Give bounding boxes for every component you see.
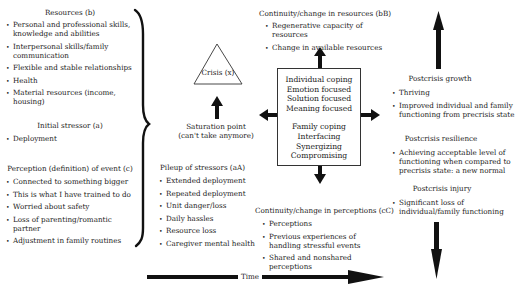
continuity-perceptions-list: Perceptions Previous experiences of hand…: [262, 219, 388, 275]
postcrisis-injury-heading: Postcrisis injury: [404, 184, 480, 193]
list-item: Change in available resources: [265, 43, 400, 52]
continuity-resources-heading: Continuity/change in resources (bB): [259, 9, 389, 18]
list-item: Unit danger/loss: [159, 201, 269, 210]
coping-item: Synergizing: [278, 142, 360, 152]
list-item: Interpersonal skills/family communicatio…: [6, 42, 134, 60]
family-coping-group: Family coping Interfacing Synergizing Co…: [278, 122, 360, 160]
list-item: Worried about safety: [6, 202, 138, 211]
crisis-label: Crisis (x): [194, 68, 242, 77]
coping-box: Individual coping Emotion focused Soluti…: [277, 68, 361, 166]
resources-heading: Resources (b): [10, 8, 130, 17]
pileup-heading: Pileup of stressors (aA): [160, 163, 256, 172]
family-coping-title: Family coping: [278, 122, 360, 132]
arrow-left-saturation-icon: [259, 109, 268, 121]
list-item: Shared and nonshared perceptions: [262, 253, 388, 271]
list-item: Daily hassles: [159, 214, 269, 223]
initial-stressor-list: Deployment: [6, 134, 134, 147]
coping-item: Interfacing: [278, 132, 360, 142]
initial-stressor-heading: Initial stressor (a): [10, 121, 130, 130]
list-item: Repeated deployment: [159, 189, 269, 198]
individual-coping-title: Individual coping: [278, 75, 360, 85]
postcrisis-resilience-heading: Postcrisis resilience: [398, 134, 484, 143]
continuity-perceptions-heading: Continuity/change in perceptions (cC): [255, 206, 385, 215]
list-item: Perceptions: [262, 219, 388, 228]
pileup-list: Extended deployment Repeated deployment …: [159, 176, 269, 251]
list-item: Loss of parenting/romantic partner: [6, 215, 138, 233]
coping-item: Meaning focused: [278, 104, 360, 114]
arrow-down-perceptions-icon: [314, 174, 326, 184]
arrow-up-growth-icon: [433, 11, 444, 30]
coping-item: Solution focused: [278, 94, 360, 104]
list-item: Achieving acceptable level of functionin…: [392, 148, 518, 175]
list-item: Material resources (income, housing): [6, 88, 134, 106]
coping-item: Compromising: [278, 151, 360, 161]
list-item: Adjustment in family routines: [6, 236, 138, 245]
arrow-down-injury-icon: [431, 249, 442, 279]
crisis-triangle: [194, 44, 242, 84]
list-item: Connected to something bigger: [6, 177, 138, 186]
continuity-resources-list: Regenerative capacity of resources Chang…: [265, 21, 400, 55]
list-item: Flexible and stable relationships: [6, 63, 134, 72]
postcrisis-growth-list: Thriving Improved individual and family …: [392, 88, 518, 122]
list-item: Thriving: [392, 88, 518, 97]
list-item: Health: [6, 76, 134, 85]
individual-coping-group: Individual coping Emotion focused Soluti…: [278, 75, 360, 113]
list-item: Significant loss of individual/family fu…: [392, 198, 520, 216]
list-item: Personal and professional skills, knowle…: [6, 20, 134, 38]
list-item: Regenerative capacity of resources: [265, 21, 400, 39]
time-axis-label: Time: [238, 272, 262, 281]
saturation-line2: (can't take anymore): [160, 131, 272, 140]
arrow-right-postcrisis-icon: [371, 109, 380, 121]
coping-item: Emotion focused: [278, 85, 360, 95]
postcrisis-resilience-list: Achieving acceptable level of functionin…: [392, 148, 518, 179]
list-item: Deployment: [6, 134, 134, 143]
list-item: Caregiver mental health: [159, 239, 269, 248]
list-item: This is what I have trained to do: [6, 190, 138, 199]
saturation-line1: Saturation point: [160, 122, 272, 131]
postcrisis-injury-list: Significant loss of individual/family fu…: [392, 198, 520, 220]
list-item: Previous experiences of handling stressf…: [262, 232, 388, 250]
list-item: Improved individual and family functioni…: [392, 101, 518, 119]
perception-list: Connected to something bigger This is wh…: [6, 177, 138, 249]
time-axis-right-bar: [262, 275, 352, 279]
list-item: Extended deployment: [159, 176, 269, 185]
time-axis-left-bar: [147, 275, 238, 279]
resources-list: Personal and professional skills, knowle…: [6, 20, 134, 110]
arrow-up-to-crisis-icon: [211, 96, 223, 106]
postcrisis-growth-heading: Postcrisis growth: [402, 74, 478, 83]
list-item: Resource loss: [159, 226, 269, 235]
perception-heading: Perception (definition) of event (c): [6, 164, 134, 173]
